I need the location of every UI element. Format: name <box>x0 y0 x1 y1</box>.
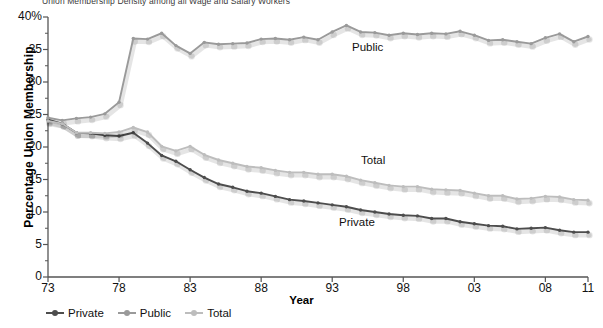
legend-swatch-public-icon <box>118 309 136 318</box>
series-total <box>46 119 592 206</box>
series-label-total: Total <box>361 154 385 166</box>
series-public <box>46 24 592 127</box>
chart-legend: PrivatePublicTotal <box>46 307 231 319</box>
union-membership-line-chart: Union Membership Density among all Wage … <box>0 0 603 328</box>
legend-label-private: Private <box>68 307 104 319</box>
series-label-private: Private <box>339 216 375 228</box>
legend-label-total: Total <box>207 307 231 319</box>
legend-swatch-total-icon <box>185 309 203 318</box>
legend-swatch-private-icon <box>46 309 64 318</box>
plot-area <box>0 0 603 328</box>
legend-item-public[interactable]: Public <box>118 307 171 319</box>
legend-label-public: Public <box>140 307 171 319</box>
legend-item-total[interactable]: Total <box>185 307 231 319</box>
series-label-public: Public <box>352 41 383 53</box>
legend-item-private[interactable]: Private <box>46 307 104 319</box>
